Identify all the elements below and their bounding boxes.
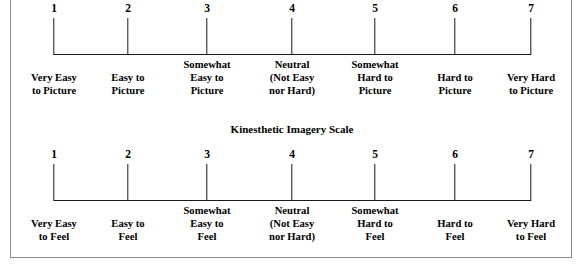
kinesthetic-scale-tick-6: [454, 164, 455, 201]
figure-border-bottom: [10, 257, 572, 258]
visual-scale-numbers: 1234567: [0, 0, 584, 18]
visual-scale-number-1: 1: [51, 0, 57, 17]
kinesthetic-scale-tick-3: [206, 164, 207, 201]
kinesthetic-scale-number-2: 2: [125, 145, 131, 163]
kinesthetic-scale-tick-5: [374, 164, 375, 201]
visual-scale-anchor-4: Neutral(Not Easynor Hard): [269, 58, 315, 98]
imagery-scales-figure: 1234567 Very Easyto PictureEasy toPictur…: [0, 0, 584, 268]
kinesthetic-scale-number-7: 7: [528, 145, 534, 163]
kinesthetic-scale-anchor-2: Easy toFeel: [111, 217, 144, 243]
kinesthetic-scale-title: Kinesthetic Imagery Scale: [0, 123, 584, 135]
kinesthetic-scale-labels: Very Easyto FeelEasy toFeelSomewhatEasy …: [0, 204, 584, 254]
kinesthetic-scale-number-5: 5: [372, 145, 378, 163]
visual-scale-number-4: 4: [289, 0, 295, 17]
kinesthetic-scale-anchor-6: Hard toFeel: [437, 217, 473, 243]
kinesthetic-imagery-scale: 1234567 Very Easyto FeelEasy toFeelSomew…: [0, 146, 584, 164]
kinesthetic-scale-anchor-1: Very Easyto Feel: [31, 217, 77, 243]
kinesthetic-scale-tick-1: [53, 164, 54, 201]
visual-scale-anchor-2: Easy toPicture: [111, 71, 144, 97]
kinesthetic-scale-number-4: 4: [289, 145, 295, 163]
visual-scale-tick-7: [530, 18, 531, 55]
kinesthetic-scale-number-1: 1: [51, 145, 57, 163]
visual-scale-tick-6: [454, 18, 455, 55]
visual-scale-anchor-6: Hard toPicture: [437, 71, 473, 97]
kinesthetic-scale-anchor-3: SomewhatEasy toFeel: [183, 204, 230, 244]
kinesthetic-scale-tick-4: [291, 164, 292, 201]
kinesthetic-scale-anchor-5: SomewhatHard toFeel: [351, 204, 398, 244]
kinesthetic-scale-anchor-7: Very Hardto Feel: [507, 217, 555, 243]
visual-scale-number-2: 2: [125, 0, 131, 17]
visual-imagery-scale: 1234567 Very Easyto PictureEasy toPictur…: [0, 0, 584, 18]
visual-scale-number-6: 6: [452, 0, 458, 17]
visual-scale-number-3: 3: [204, 0, 210, 17]
visual-scale-tick-1: [53, 18, 54, 55]
visual-scale-number-5: 5: [372, 0, 378, 17]
visual-scale-anchor-1: Very Easyto Picture: [31, 71, 77, 97]
visual-scale-axis: [0, 18, 584, 56]
visual-scale-anchor-3: SomewhatEasy toPicture: [183, 58, 230, 98]
visual-scale-anchor-7: Very Hardto Picture: [507, 71, 555, 97]
visual-scale-tick-3: [206, 18, 207, 55]
kinesthetic-scale-numbers: 1234567: [0, 146, 584, 164]
visual-scale-anchor-5: SomewhatHard toPicture: [351, 58, 398, 98]
kinesthetic-scale-number-6: 6: [452, 145, 458, 163]
kinesthetic-scale-axis: [0, 164, 584, 202]
visual-scale-number-7: 7: [528, 0, 534, 17]
kinesthetic-scale-number-3: 3: [204, 145, 210, 163]
visual-scale-tick-5: [374, 18, 375, 55]
visual-scale-tick-4: [291, 18, 292, 55]
kinesthetic-scale-anchor-4: Neutral(Not Easynor Hard): [269, 204, 315, 244]
kinesthetic-scale-tick-7: [530, 164, 531, 201]
visual-scale-labels: Very Easyto PictureEasy toPictureSomewha…: [0, 58, 584, 108]
visual-scale-tick-2: [127, 18, 128, 55]
kinesthetic-scale-tick-2: [127, 164, 128, 201]
